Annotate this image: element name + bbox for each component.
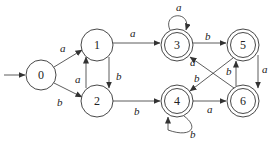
edge-0-2	[54, 83, 82, 97]
edge-label-6-5: b	[226, 65, 232, 77]
state-5-label: 5	[240, 38, 246, 52]
state-0-label: 0	[38, 68, 44, 82]
state-1-label: 1	[94, 38, 100, 52]
automaton-diagram: 0 1 2 3 4 5 6 a b a b a b a b b a a b a …	[0, 0, 269, 143]
state-3-label: 3	[174, 38, 180, 52]
edge-label-6-3: a	[190, 56, 196, 68]
edge-label-0-2: b	[57, 96, 63, 108]
state-4: 4	[161, 85, 193, 117]
edge-label-0-1: a	[60, 42, 66, 54]
state-2-label: 2	[94, 94, 100, 108]
state-5: 5	[227, 29, 259, 61]
diagram-canvas: 0 1 2 3 4 5 6 a b a b a b a b b a a b a …	[0, 0, 269, 143]
edge-label-5-4: b	[194, 72, 200, 84]
edge-3-3	[169, 16, 187, 30]
edge-label-5-6: a	[262, 63, 268, 75]
state-2: 2	[81, 85, 113, 117]
edge-label-4-4: b	[190, 128, 196, 140]
edge-label-1-2: b	[116, 70, 122, 82]
edge-label-4-6: a	[207, 103, 213, 115]
edge-0-1	[54, 50, 82, 67]
state-1: 1	[81, 29, 113, 61]
edge-label-1-3: a	[130, 27, 136, 39]
state-6-label: 6	[240, 94, 246, 108]
state-0: 0	[26, 60, 56, 90]
edge-label-2-4: b	[134, 105, 140, 117]
edge-4-4	[168, 116, 192, 133]
edge-label-2-1: a	[75, 73, 81, 85]
edge-label-3-3: a	[176, 1, 182, 13]
state-4-label: 4	[174, 94, 180, 108]
state-3: 3	[161, 29, 193, 61]
state-6: 6	[227, 85, 259, 117]
edge-label-3-5: b	[205, 30, 211, 42]
